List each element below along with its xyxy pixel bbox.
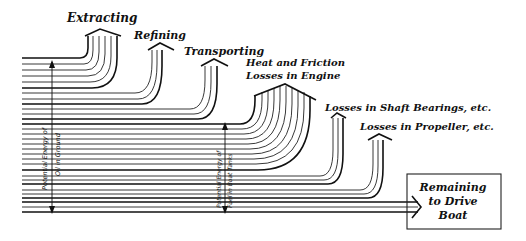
label-propeller: Losses in Propeller, etc. xyxy=(359,121,494,133)
label-shaft-bearings: Losses in Shaft Bearings, etc. xyxy=(324,102,491,114)
label-engine-line1: Heat and Friction xyxy=(245,57,345,68)
label-remaining-line1: Remaining xyxy=(419,181,487,194)
label-refining: Refining xyxy=(133,29,186,42)
label-fuel-line2: Fuel in Boat Tanks xyxy=(226,154,233,209)
label-fuel-line1: Potential Energy of xyxy=(215,150,223,208)
label-remaining-line3: Boat xyxy=(438,209,468,222)
label-engine-line2: Losses in Engine xyxy=(245,70,340,81)
energy-flow-diagram: Extracting Refining Transporting Heat an… xyxy=(0,0,526,241)
label-oil-line1: Potential Energy of xyxy=(41,126,49,190)
label-remaining-line2: to Drive xyxy=(428,195,477,208)
label-extracting: Extracting xyxy=(66,11,137,25)
branch-engine xyxy=(22,84,316,170)
label-oil-line2: Oil in Ground xyxy=(54,132,62,176)
branch-extracting xyxy=(22,29,121,88)
